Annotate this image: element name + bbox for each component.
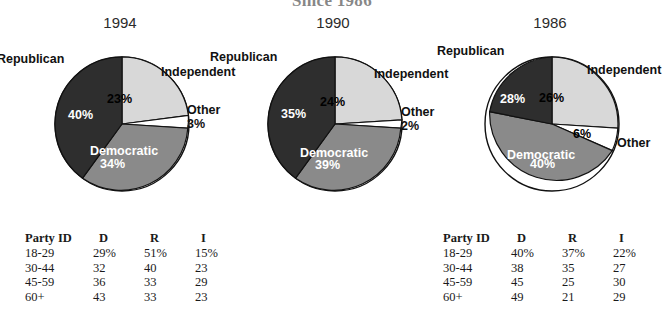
- callout-other: Other: [187, 103, 220, 117]
- cell-r: 37%: [562, 246, 613, 261]
- cell-age: 45-59: [443, 275, 511, 290]
- cell-age: 18-29: [443, 246, 511, 261]
- cell-d: 38: [511, 261, 562, 276]
- callout-democratic: Democratic: [90, 144, 158, 158]
- chart-year-label: 1994: [9, 14, 231, 31]
- slice-value-independent: 26%: [539, 91, 564, 105]
- cell-r: 25: [562, 275, 613, 290]
- callout-independent: Independent: [587, 63, 661, 77]
- cell-i: 15%: [195, 246, 246, 261]
- callout-republican: Republican: [437, 44, 504, 58]
- table-row: 30-44 32 40 23: [25, 261, 246, 276]
- cell-d: 45: [511, 275, 562, 290]
- callout-other: Other: [617, 136, 650, 150]
- figure-canvas: Since 1986 1994 23% 40% 34% Republican: [0, 0, 664, 319]
- cell-r: 33: [144, 290, 195, 305]
- slice-value-republican: 28%: [500, 92, 525, 106]
- table-header-row: Party ID D R I: [25, 231, 246, 246]
- chart-panel-1986: 1986 26% 28% 40% 6% Republican Independe…: [439, 0, 661, 222]
- cell-r: 40: [144, 261, 195, 276]
- cell-d: 36: [93, 275, 144, 290]
- cell-i: 23: [195, 261, 246, 276]
- callout-democratic: Democratic: [300, 146, 368, 160]
- callout-independent: Independent: [374, 67, 448, 81]
- cell-i: 23: [195, 290, 246, 305]
- cell-d: 49: [511, 290, 562, 305]
- slice-value-other: 6%: [573, 127, 591, 141]
- chart-year-label: 1986: [439, 14, 661, 31]
- table-header-r: R: [562, 231, 613, 246]
- table-row: 30-44 38 35 27: [443, 261, 664, 276]
- slice-value-independent: 23%: [107, 92, 132, 106]
- chart-panel-1994: 1994 23% 40% 34% Republican Independent …: [9, 0, 231, 222]
- cell-d: 29%: [93, 246, 144, 261]
- table-header-d: D: [511, 231, 562, 246]
- callout-democratic: Democratic: [507, 148, 575, 162]
- party-id-table-1986: Party ID D R I 18-29 40% 37% 22% 30-44 3…: [443, 231, 664, 305]
- cell-i: 29: [195, 275, 246, 290]
- callout-other-value: 2%: [401, 119, 419, 133]
- cell-age: 60+: [443, 290, 511, 305]
- slice-value-republican: 40%: [68, 108, 93, 122]
- cell-r: 21: [562, 290, 613, 305]
- party-id-table-1994: Party ID D R I 18-29 29% 51% 15% 30-44 3…: [25, 231, 246, 305]
- slice-value-republican: 35%: [281, 107, 306, 121]
- table-header-r: R: [144, 231, 195, 246]
- cell-d: 32: [93, 261, 144, 276]
- table-row: 18-29 29% 51% 15%: [25, 246, 246, 261]
- callout-republican: Republican: [0, 52, 64, 66]
- table-row: 45-59 36 33 29: [25, 275, 246, 290]
- slice-value-democratic: 39%: [315, 158, 340, 172]
- cell-r: 35: [562, 261, 613, 276]
- cell-age: 18-29: [25, 246, 93, 261]
- cell-d: 40%: [511, 246, 562, 261]
- table-row: 45-59 45 25 30: [443, 275, 664, 290]
- cell-r: 51%: [144, 246, 195, 261]
- callout-other-value: 3%: [187, 117, 205, 131]
- slice-value-independent: 24%: [320, 95, 345, 109]
- table-header-party-id: Party ID: [443, 231, 511, 246]
- table-row: 60+ 49 21 29: [443, 290, 664, 305]
- cell-age: 45-59: [25, 275, 93, 290]
- cell-i: 27: [613, 261, 664, 276]
- cell-age: 30-44: [25, 261, 93, 276]
- cell-age: 60+: [25, 290, 93, 305]
- cell-i: 30: [613, 275, 664, 290]
- table-header-party-id: Party ID: [25, 231, 93, 246]
- table-header-i: I: [195, 231, 246, 246]
- cell-i: 22%: [613, 246, 664, 261]
- table-header-d: D: [93, 231, 144, 246]
- cell-i: 29: [613, 290, 664, 305]
- cell-d: 43: [93, 290, 144, 305]
- table-row: 60+ 43 33 23: [25, 290, 246, 305]
- table-header-row: Party ID D R I: [443, 231, 664, 246]
- slice-value-democratic: 34%: [100, 157, 125, 171]
- callout-republican: Republican: [210, 50, 277, 64]
- cell-r: 33: [144, 275, 195, 290]
- table-row: 18-29 40% 37% 22%: [443, 246, 664, 261]
- chart-panel-1990: 1990 24% 35% 39% Republican Independent …: [222, 0, 444, 222]
- cell-age: 30-44: [443, 261, 511, 276]
- chart-year-label: 1990: [222, 14, 444, 31]
- table-header-i: I: [613, 231, 664, 246]
- callout-other: Other: [401, 105, 434, 119]
